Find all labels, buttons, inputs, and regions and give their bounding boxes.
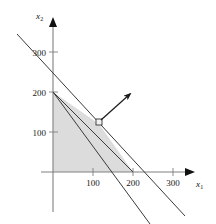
y-tick-label-200: 200 [33, 88, 47, 98]
x-tick-label-300: 300 [166, 178, 180, 188]
chart-figure: 100 200 300 100 200 300 x2 x1 [0, 0, 216, 224]
y-axis-label-subscript: 2 [40, 16, 43, 22]
x-axis-label-text: x [195, 179, 200, 189]
y-axis-label: x2 [35, 11, 43, 22]
y-axis-label-text: x [35, 11, 40, 21]
gradient-direction-arrow [101, 94, 130, 120]
x-axis-label: x1 [195, 179, 203, 190]
y-tick-label-300: 300 [33, 48, 47, 58]
x-tick-label-100: 100 [86, 178, 100, 188]
x-axis-label-subscript: 1 [200, 184, 203, 190]
chart-canvas: 100 200 300 100 200 300 x2 x1 [0, 0, 216, 224]
y-tick-label-100: 100 [33, 128, 47, 138]
x-tick-label-200: 200 [126, 178, 140, 188]
